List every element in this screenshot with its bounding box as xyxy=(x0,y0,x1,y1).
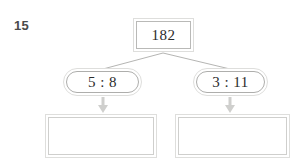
ratio-pill-left-inner: 5 : 8 xyxy=(66,71,139,93)
question-number: 15 xyxy=(14,19,29,32)
branch-line-left xyxy=(103,53,163,69)
ratio-pill-left: 5 : 8 xyxy=(63,68,142,96)
ratio-pill-left-label: 5 : 8 xyxy=(88,75,117,90)
worksheet-diagram-page: 15 182 5 : 8 3 : 11 xyxy=(0,0,306,168)
ratio-pill-right-label: 3 : 11 xyxy=(212,75,249,90)
answer-box-right[interactable] xyxy=(175,114,290,158)
total-value-label: 182 xyxy=(152,28,176,43)
total-value-box-inner: 182 xyxy=(136,21,191,49)
ratio-pill-right-inner: 3 : 11 xyxy=(196,71,265,93)
answer-box-left[interactable] xyxy=(45,114,157,158)
arrow-down-left xyxy=(98,97,108,113)
arrow-down-right xyxy=(225,97,235,113)
answer-box-right-inner[interactable] xyxy=(178,117,287,155)
ratio-pill-right: 3 : 11 xyxy=(193,68,268,96)
branch-line-right xyxy=(163,53,230,69)
answer-box-left-inner[interactable] xyxy=(48,117,154,155)
total-value-box: 182 xyxy=(133,18,194,52)
